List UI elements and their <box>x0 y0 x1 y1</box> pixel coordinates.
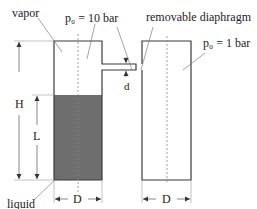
L-label: L <box>33 129 40 143</box>
H-label: H <box>15 97 24 111</box>
d-label: d <box>124 80 130 92</box>
liquid-leader <box>34 175 60 200</box>
D-left-label: D <box>73 192 82 206</box>
D-right-label: D <box>162 192 171 206</box>
diaphragm-leader-right <box>141 27 153 70</box>
vapor-leader <box>38 18 62 52</box>
right-tank <box>142 41 191 180</box>
two-tank-diagram: H L d D D vapor p₀ = 10 bar removable di… <box>0 0 257 209</box>
p1-leader <box>183 53 205 70</box>
diaphragm-label: removable diaphragm <box>146 10 252 24</box>
vapor-label: vapor <box>12 6 39 20</box>
left-pressure-label: p₀ = 10 bar <box>65 11 118 25</box>
liquid-label: liquid <box>7 197 35 209</box>
right-pressure-label: p₀ = 1 bar <box>203 36 250 50</box>
